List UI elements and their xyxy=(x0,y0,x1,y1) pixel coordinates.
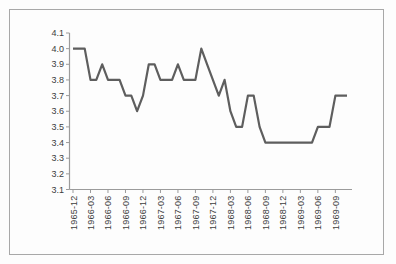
y-tick-label: 3.7 xyxy=(51,91,64,101)
x-tick-label: 1966-09 xyxy=(121,196,131,230)
x-tick-label: 1967-09 xyxy=(191,196,201,230)
data-line xyxy=(73,49,347,143)
x-tick-label: 1966-06 xyxy=(103,196,113,230)
x-tick-label: 1969-06 xyxy=(313,196,323,230)
y-axis: 4.14.03.93.83.73.63.53.43.33.23.1 xyxy=(51,28,69,195)
y-tick-label: 3.4 xyxy=(51,138,64,148)
x-tick-label: 1969-09 xyxy=(331,196,341,230)
data-series xyxy=(73,49,347,143)
x-tick-label: 1966-12 xyxy=(138,196,148,230)
y-tick-label: 3.5 xyxy=(51,122,64,132)
y-tick-label: 3.6 xyxy=(51,106,64,116)
y-tick-label: 4.1 xyxy=(51,28,64,38)
y-tick-label: 4.0 xyxy=(51,44,64,54)
y-tick-label: 3.2 xyxy=(51,169,64,179)
x-tick-label: 1967-03 xyxy=(156,196,166,230)
x-tick-label: 1965-12 xyxy=(69,196,79,230)
line-chart: 4.14.03.93.83.73.63.53.43.33.23.1 1965-1… xyxy=(0,0,396,264)
x-tick-label: 1968-06 xyxy=(243,196,253,230)
x-tick-label: 1967-12 xyxy=(208,196,218,230)
y-tick-label: 3.1 xyxy=(51,185,64,195)
x-tick-label: 1968-09 xyxy=(261,196,271,230)
x-tick-label: 1966-03 xyxy=(86,196,96,230)
y-tick-label: 3.9 xyxy=(51,59,64,69)
y-tick-label: 3.8 xyxy=(51,75,64,85)
x-tick-label: 1967-06 xyxy=(173,196,183,230)
x-tick-label: 1968-12 xyxy=(278,196,288,230)
y-tick-label: 3.3 xyxy=(51,153,64,163)
chart-figure: 4.14.03.93.83.73.63.53.43.33.23.1 1965-1… xyxy=(0,0,396,264)
x-tick-label: 1968-03 xyxy=(226,196,236,230)
x-tick-label: 1969-03 xyxy=(296,196,306,230)
x-axis: 1965-121966-031966-061966-091966-121967-… xyxy=(69,190,353,230)
